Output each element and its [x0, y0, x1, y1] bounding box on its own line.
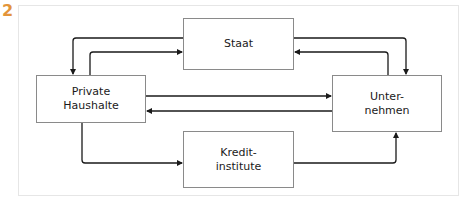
- node-kreditinstitute: Kredit- institute: [183, 131, 294, 188]
- arrow-unternehmen-to-staat: [295, 52, 388, 75]
- node-private-haushalte-label: Private Haushalte: [63, 85, 119, 113]
- node-kreditinstitute-label: Kredit- institute: [216, 146, 262, 174]
- node-unternehmen: Unter- nehmen: [332, 75, 442, 132]
- node-staat: Staat: [183, 18, 294, 70]
- node-unternehmen-label: Unter- nehmen: [364, 90, 409, 118]
- arrow-haushalte-to-staat: [90, 52, 182, 75]
- node-staat-label: Staat: [224, 37, 253, 51]
- arrow-kredit-to-unternehmen: [294, 133, 396, 163]
- arrow-staat-to-unternehmen: [294, 38, 406, 74]
- node-private-haushalte: Private Haushalte: [36, 75, 146, 123]
- arrow-haushalte-to-kredit: [82, 123, 182, 163]
